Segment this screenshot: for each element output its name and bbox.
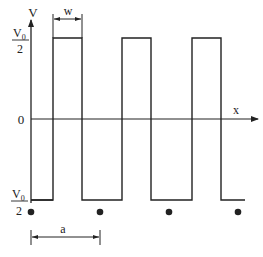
lattice-dot — [97, 209, 104, 216]
bottom-level-denominator: 2 — [16, 204, 22, 218]
origin-label: 0 — [18, 112, 25, 127]
square-wave-diagram: w a V x 0 V0 2 V0 2 — [0, 0, 263, 257]
w-label: w — [64, 4, 73, 18]
x-axis-label: x — [233, 103, 239, 117]
lattice-dot — [28, 209, 35, 216]
bottom-level-label: V0 2 — [11, 187, 28, 218]
lattice-dot — [235, 209, 242, 216]
top-level-label: V0 2 — [12, 26, 29, 56]
y-axis-label: V — [28, 5, 38, 20]
top-level-denominator: 2 — [17, 42, 23, 56]
lattice-dot — [166, 209, 173, 216]
a-label: a — [60, 222, 66, 236]
